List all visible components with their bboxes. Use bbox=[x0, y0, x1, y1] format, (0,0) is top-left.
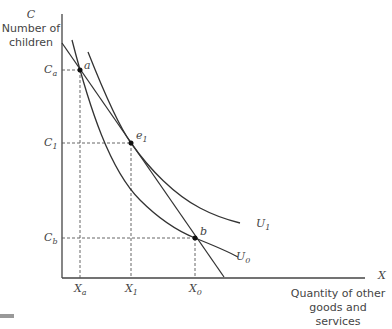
point-e1 bbox=[129, 141, 134, 146]
point-b bbox=[193, 236, 198, 241]
y-axis-symbol: C bbox=[0, 8, 62, 22]
figure-tag-marker bbox=[0, 314, 14, 318]
indifference-curve-u1 bbox=[88, 52, 240, 223]
y-axis-label-line1: Number of bbox=[0, 22, 62, 36]
x-axis-label-line1: Quantity of other bbox=[290, 287, 386, 301]
tick-x1: X1 bbox=[125, 282, 138, 297]
tick-x0: X0 bbox=[189, 282, 202, 297]
x-axis-label: Quantity of other goods and services bbox=[290, 287, 386, 329]
x-axis-symbol: X bbox=[378, 269, 386, 282]
label-b: b bbox=[200, 225, 207, 238]
tick-cb: Cb bbox=[44, 231, 58, 246]
x-axis-label-line2: goods and services bbox=[290, 301, 386, 329]
label-e1: e1 bbox=[136, 129, 148, 144]
label-u1: U1 bbox=[256, 217, 270, 232]
y-axis-label: C Number of children bbox=[0, 8, 62, 50]
tick-c1: C1 bbox=[44, 136, 58, 151]
tick-xa: Xa bbox=[74, 282, 87, 297]
label-u0: U0 bbox=[236, 250, 250, 265]
label-a: a bbox=[84, 59, 91, 72]
budget-line bbox=[62, 43, 224, 277]
point-a bbox=[78, 68, 83, 73]
guide-lines bbox=[62, 70, 195, 278]
y-axis-label-line2: children bbox=[0, 36, 62, 50]
tick-ca: Ca bbox=[44, 63, 57, 78]
